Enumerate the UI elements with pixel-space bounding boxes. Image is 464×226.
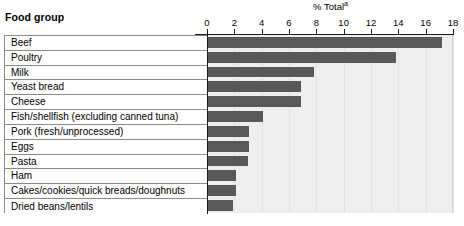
category-label-cell: Pasta xyxy=(5,155,207,170)
y-axis-line xyxy=(207,35,208,214)
bar xyxy=(207,156,248,167)
bar xyxy=(207,185,236,196)
bar-row xyxy=(207,139,453,154)
x-tick-label: 0 xyxy=(204,17,209,28)
x-tick-label: 14 xyxy=(393,17,404,28)
bar xyxy=(207,52,396,63)
x-tick-mark xyxy=(262,29,263,34)
bar xyxy=(207,200,233,211)
x-tick-mark xyxy=(207,29,208,34)
bar xyxy=(207,67,314,78)
bar-row xyxy=(207,168,453,183)
category-label-cell: Pork (fresh/unprocessed) xyxy=(5,125,207,140)
x-tick-mark xyxy=(426,29,427,34)
category-label-table: BeefPoultryMilkYeast breadCheeseFish/she… xyxy=(4,35,208,213)
x-axis-title: % Totala xyxy=(207,1,454,12)
x-tick-label: 6 xyxy=(286,17,291,28)
bar xyxy=(207,126,249,137)
bar-row xyxy=(207,79,453,94)
x-tick-label: 18 xyxy=(448,17,459,28)
x-tick-mark xyxy=(453,29,454,34)
category-label-cell: Poultry xyxy=(5,51,207,66)
x-tick-label: 16 xyxy=(420,17,431,28)
category-label-cell: Cheese xyxy=(5,95,207,110)
footnote-marker: a xyxy=(344,0,348,7)
category-label-cell: Milk xyxy=(5,66,207,81)
category-label-cell: Beef xyxy=(5,36,207,51)
x-tick-label: 10 xyxy=(338,17,349,28)
x-axis-tick-labels: 024681012141618 xyxy=(0,17,464,29)
bar xyxy=(207,37,442,48)
x-tick-label: 2 xyxy=(232,17,237,28)
bar-row xyxy=(207,35,453,50)
bar-row xyxy=(207,50,453,65)
category-label-cell: Yeast bread xyxy=(5,80,207,95)
bar-row xyxy=(207,65,453,80)
category-label-cell: Dried beans/lentils xyxy=(5,199,207,214)
gridline xyxy=(453,35,454,213)
category-label-cell: Eggs xyxy=(5,140,207,155)
x-tick-label: 12 xyxy=(366,17,377,28)
x-tick-mark xyxy=(316,29,317,34)
bar-row xyxy=(207,94,453,109)
category-label-cell: Fish/shellfish (excluding canned tuna) xyxy=(5,110,207,125)
horizontal-bar-chart: Food group % Totala 024681012141618 Beef… xyxy=(0,0,464,226)
x-tick-mark xyxy=(234,29,235,34)
x-tick-mark xyxy=(289,29,290,34)
bar xyxy=(207,170,236,181)
bars-layer xyxy=(207,35,453,213)
bar-row xyxy=(207,198,453,213)
bar-row xyxy=(207,109,453,124)
category-label-cell: Ham xyxy=(5,169,207,184)
category-label-cell: Cakes/cookies/quick breads/doughnuts xyxy=(5,184,207,199)
x-tick-label: 8 xyxy=(314,17,319,28)
bar-row xyxy=(207,183,453,198)
bar xyxy=(207,111,263,122)
x-tick-mark xyxy=(398,29,399,34)
bar xyxy=(207,96,301,107)
bar-row xyxy=(207,154,453,169)
bar xyxy=(207,141,249,152)
x-tick-mark xyxy=(371,29,372,34)
x-tick-label: 4 xyxy=(259,17,264,28)
bar-row xyxy=(207,124,453,139)
x-axis-title-text: % Total xyxy=(313,1,344,12)
x-tick-mark xyxy=(344,29,345,34)
bar xyxy=(207,81,301,92)
